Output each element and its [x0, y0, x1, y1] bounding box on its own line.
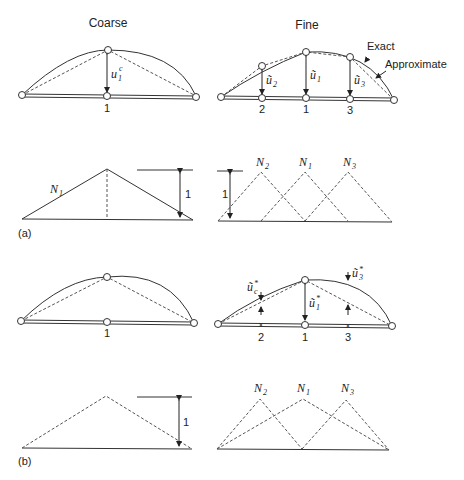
- svg-text:N: N: [296, 381, 306, 395]
- svg-text:2: 2: [273, 80, 277, 89]
- node-label-2: 2: [259, 103, 265, 115]
- panel-label-b: (b): [18, 455, 31, 467]
- coarse-mesh-a: [19, 47, 200, 101]
- svg-text:*: *: [359, 265, 363, 274]
- coarse-shape-function-a: [22, 169, 193, 220]
- svg-text:ũ: ũ: [354, 73, 360, 87]
- svg-text:ũ: ũ: [309, 296, 315, 310]
- coarse-header: Coarse: [89, 16, 128, 30]
- node-label-3: 3: [347, 104, 353, 116]
- svg-text:1: 1: [306, 388, 310, 397]
- svg-text:×: ×: [258, 320, 263, 330]
- fine-shape-functions-b: [217, 399, 389, 450]
- coarse-mesh-b: [18, 274, 198, 327]
- unit-label-b: 1: [183, 416, 189, 428]
- svg-text:N: N: [298, 155, 308, 169]
- unit-label-a-fine: 1: [222, 188, 228, 200]
- svg-text:N: N: [49, 182, 59, 196]
- panel-label-a: (a): [18, 227, 31, 239]
- node-label-3-b: 3: [345, 331, 351, 343]
- node-label-1-fine: 1: [303, 103, 309, 115]
- svg-text:N: N: [342, 155, 352, 169]
- svg-text:N: N: [253, 381, 263, 395]
- svg-text:ũ: ũ: [247, 280, 253, 294]
- fine-mesh-a: [218, 49, 398, 104]
- svg-text:*: *: [316, 294, 320, 303]
- coarse-u-label: u: [111, 67, 117, 81]
- fine-shape-functions-a: [217, 171, 392, 222]
- svg-text:c: c: [119, 64, 123, 73]
- svg-text:ũ: ũ: [266, 73, 272, 87]
- svg-text:2: 2: [265, 162, 269, 171]
- svg-text:1: 1: [59, 189, 63, 198]
- coarse-shape-function-b: [22, 396, 192, 449]
- diagram-svg: Coarse Fine u c 1 1 ũ 2 ũ 1 ũ 3 2: [0, 0, 464, 480]
- node-label-1: 1: [104, 102, 110, 114]
- svg-text:N: N: [255, 155, 265, 169]
- svg-text:ũ: ũ: [310, 68, 316, 82]
- svg-text:*: *: [254, 279, 258, 288]
- svg-text:ũ: ũ: [352, 266, 358, 280]
- svg-text:3: 3: [360, 80, 365, 89]
- node-label-1-b: 1: [104, 327, 110, 339]
- node-label-2-b: 2: [258, 331, 264, 343]
- svg-text:1: 1: [308, 162, 312, 171]
- svg-text:2: 2: [263, 388, 267, 397]
- svg-text:3: 3: [358, 273, 363, 282]
- legend-exact: Exact: [367, 40, 395, 52]
- svg-text:N: N: [340, 381, 350, 395]
- svg-text:3: 3: [351, 162, 356, 171]
- fine-mesh-b: × ×: [215, 272, 396, 331]
- svg-text:1: 1: [118, 74, 122, 83]
- legend-approximate: Approximate: [385, 58, 447, 70]
- unit-label-a-coarse: 1: [185, 188, 191, 200]
- svg-text:c: c: [254, 287, 258, 296]
- svg-text:×: ×: [345, 321, 350, 331]
- fem-refinement-diagram: Coarse Fine u c 1 1 ũ 2 ũ 1 ũ 3 2: [0, 0, 464, 480]
- node-label-1-b-fine: 1: [302, 331, 308, 343]
- svg-text:1: 1: [316, 303, 320, 312]
- svg-text:1: 1: [317, 75, 321, 84]
- svg-text:3: 3: [349, 388, 354, 397]
- fine-header: Fine: [295, 18, 319, 32]
